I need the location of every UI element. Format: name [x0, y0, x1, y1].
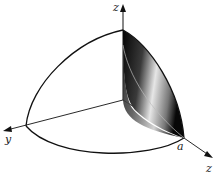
y-axis — [3, 100, 123, 132]
x-axis-label: z — [206, 163, 212, 174]
z-axis-label: z — [113, 2, 119, 13]
arc-yz — [26, 30, 123, 126]
a-point-label: a — [177, 141, 184, 152]
octant-diagram — [0, 0, 218, 177]
cylinder-surface — [123, 30, 184, 138]
y-axis-label: y — [5, 134, 11, 145]
y-arrow-icon — [3, 126, 12, 132]
x-arrow-icon — [204, 151, 213, 158]
z-arrow-icon — [120, 4, 126, 12]
